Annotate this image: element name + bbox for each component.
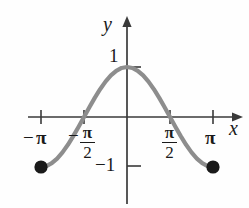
fraction-numerator: π [164, 124, 175, 142]
fraction-numerator: π [82, 124, 93, 142]
neg-pi-over-2-minus-sign: − [68, 125, 79, 147]
y-axis-label: y [103, 14, 112, 34]
x-axis-label: x [229, 118, 238, 138]
left-endpoint-dot [34, 160, 47, 173]
plot-background [0, 0, 249, 208]
plot-canvas [0, 0, 249, 208]
right-endpoint-dot [206, 160, 219, 173]
x-tick-label-neg-pi-over-2: π 2 [80, 124, 95, 161]
fraction-denominator: 2 [83, 143, 92, 161]
x-tick-label-pi-over-2: π 2 [162, 124, 177, 161]
x-tick-label-pi: π [205, 128, 215, 147]
x-tick-label-neg-pi: π [36, 128, 46, 147]
y-tick-label-one: 1 [109, 46, 119, 65]
fraction-denominator: 2 [165, 143, 174, 161]
neg-pi-minus-sign: − [23, 127, 34, 149]
cosine-graph-figure: y x 1 −1 − π − π 2 π 2 π [0, 0, 249, 208]
y-tick-label-neg-one: −1 [95, 155, 115, 174]
